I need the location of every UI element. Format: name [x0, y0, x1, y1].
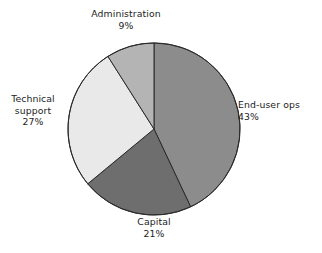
pie-label-administration-name: Administration	[73, 8, 179, 20]
pie-label-technical-support-value: 27%	[0, 116, 66, 128]
pie-label-end-user-ops-value: 43%	[238, 111, 322, 123]
pie-label-capital: Capital 21%	[104, 216, 204, 239]
pie-label-capital-name: Capital	[104, 216, 204, 228]
pie-label-end-user-ops-name: End-user ops	[238, 99, 322, 111]
pie-label-technical-support-name-line1: Technical	[0, 93, 66, 105]
pie-label-technical-support: Technical support 27%	[0, 93, 66, 128]
pie-label-administration-value: 9%	[73, 20, 179, 32]
pie-chart-figure: Administration 9% End-user ops 43% Techn…	[0, 0, 322, 253]
pie-label-administration: Administration 9%	[73, 8, 179, 31]
pie-label-technical-support-name-line2: support	[0, 105, 66, 117]
pie-slices	[68, 43, 240, 215]
pie-label-capital-value: 21%	[104, 228, 204, 240]
pie-label-end-user-ops: End-user ops 43%	[238, 99, 322, 122]
